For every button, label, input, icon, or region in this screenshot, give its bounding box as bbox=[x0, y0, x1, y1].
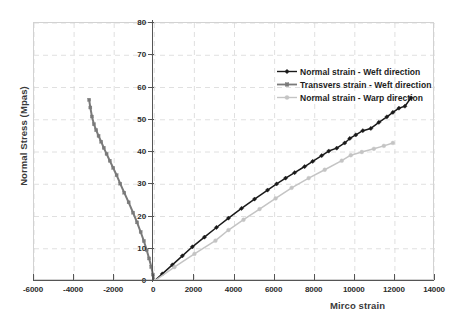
x-tick-mark bbox=[434, 274, 435, 280]
y-tick-mark bbox=[148, 151, 154, 152]
series-1 bbox=[88, 98, 156, 281]
y-tick-mark bbox=[148, 119, 154, 120]
legend-marker-icon bbox=[276, 92, 298, 103]
x-tick-label: -2000 bbox=[91, 285, 135, 294]
data-series-layer bbox=[34, 23, 435, 281]
legend-label: Normal strain - Warp direction bbox=[300, 93, 423, 103]
y-tick-label: 20 bbox=[120, 211, 146, 220]
legend-item[interactable]: Normal strain - Warp direction bbox=[276, 92, 431, 103]
x-tick-label: 12000 bbox=[372, 285, 416, 294]
x-tick-label: -6000 bbox=[11, 285, 55, 294]
x-tick-label: 14000 bbox=[412, 285, 454, 294]
y-axis-title: Normal Stress (Mpas) bbox=[16, 51, 32, 221]
y-tick-mark bbox=[148, 216, 154, 217]
x-tick-label: 10000 bbox=[332, 285, 376, 294]
legend-item[interactable]: Transvers strain - Weft direction bbox=[276, 79, 431, 90]
legend-label: Transvers strain - Weft direction bbox=[300, 80, 431, 90]
y-axis-spine bbox=[152, 20, 153, 282]
y-tick-label: 60 bbox=[120, 82, 146, 91]
series-0 bbox=[152, 96, 413, 281]
y-tick-mark bbox=[148, 22, 154, 23]
legend-marker-icon bbox=[276, 79, 298, 90]
y-tick-mark bbox=[148, 248, 154, 249]
y-tick-label: 30 bbox=[120, 179, 146, 188]
x-axis-title: Mirco strain bbox=[330, 300, 385, 311]
x-tick-label: -4000 bbox=[51, 285, 95, 294]
y-tick-label: 80 bbox=[120, 18, 146, 27]
x-axis-spine bbox=[33, 280, 434, 281]
chart-figure: Normal Stress (Mpas) Mirco strain Normal… bbox=[0, 0, 454, 323]
x-tick-label: 0 bbox=[131, 285, 175, 294]
y-tick-label: 50 bbox=[120, 114, 146, 123]
y-tick-mark bbox=[148, 87, 154, 88]
x-tick-label: 6000 bbox=[252, 285, 296, 294]
x-tick-label: 8000 bbox=[292, 285, 336, 294]
y-tick-label: 40 bbox=[120, 147, 146, 156]
series-2 bbox=[152, 141, 394, 281]
y-tick-label: 70 bbox=[120, 50, 146, 59]
y-tick-label: 10 bbox=[120, 243, 146, 252]
legend-item[interactable]: Normal strain - Weft direction bbox=[276, 66, 431, 77]
legend-label: Normal strain - Weft direction bbox=[300, 67, 420, 77]
y-tick-mark bbox=[148, 54, 154, 55]
y-tick-mark bbox=[148, 183, 154, 184]
x-tick-label: 4000 bbox=[212, 285, 256, 294]
legend-marker-icon bbox=[276, 66, 298, 77]
legend: Normal strain - Weft directionTransvers … bbox=[276, 66, 431, 103]
x-tick-label: 2000 bbox=[171, 285, 215, 294]
plot-area: Normal strain - Weft directionTransvers … bbox=[33, 22, 434, 280]
